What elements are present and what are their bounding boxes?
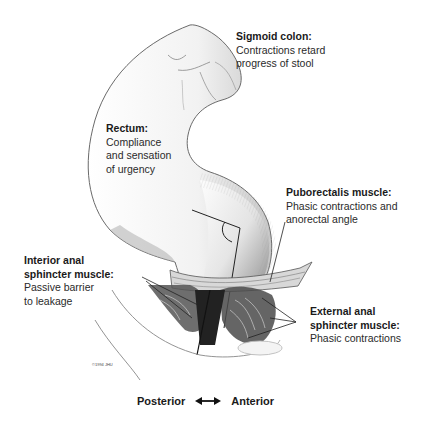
label-rectum: Rectum: Compliance and sensation of urge…: [106, 122, 171, 176]
label-external-anal-sphincter: External anal sphincter muscle: Phasic c…: [310, 305, 401, 346]
axis-label-anterior: Anterior: [231, 395, 274, 407]
label-desc: Contractions retard: [236, 44, 325, 58]
label-desc: anorectal angle: [286, 213, 397, 227]
label-desc: Compliance: [106, 136, 171, 150]
label-title: Sigmoid colon:: [236, 30, 325, 44]
label-desc: of urgency: [106, 163, 171, 177]
label-title: External anal: [310, 305, 401, 319]
label-desc: to leakage: [24, 295, 114, 309]
label-desc: and sensation: [106, 149, 171, 163]
label-desc: Passive barrier: [24, 281, 114, 295]
label-desc: Phasic contractions and: [286, 200, 397, 214]
label-desc: progress of stool: [236, 57, 325, 71]
orientation-axis: Posterior Anterior: [137, 395, 274, 407]
label-title: sphincter muscle:: [24, 268, 114, 282]
axis-label-posterior: Posterior: [137, 395, 185, 407]
double-arrow-icon: [195, 396, 221, 406]
label-title: Interior anal: [24, 254, 114, 268]
label-interior-anal-sphincter: Interior anal sphincter muscle: Passive …: [24, 254, 114, 308]
artist-signature: ©1994 JHU: [92, 362, 113, 367]
label-sigmoid-colon: Sigmoid colon: Contractions retard progr…: [236, 30, 325, 71]
label-title: Puborectalis muscle:: [286, 186, 397, 200]
label-title: sphincter muscle:: [310, 319, 401, 333]
label-desc: Phasic contractions: [310, 332, 401, 346]
label-title: Rectum:: [106, 122, 171, 136]
label-puborectalis-muscle: Puborectalis muscle: Phasic contractions…: [286, 186, 397, 227]
